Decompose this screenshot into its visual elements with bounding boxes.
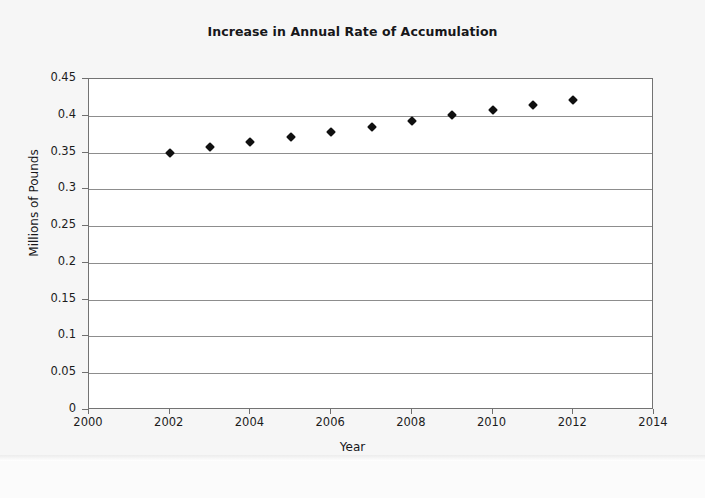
chart-page: Increase in Annual Rate of Accumulation … — [0, 0, 705, 498]
data-point — [326, 127, 336, 137]
y-axis-tick-label: 0.05 — [14, 364, 76, 378]
data-point — [205, 142, 215, 152]
data-point — [245, 137, 255, 147]
gridline — [89, 373, 652, 374]
x-axis-tick-mark — [330, 409, 331, 414]
y-axis-tick-label: 0.25 — [14, 217, 76, 231]
gridline — [89, 336, 652, 337]
x-axis-tick-mark — [249, 409, 250, 414]
chart-title: Increase in Annual Rate of Accumulation — [0, 24, 705, 39]
data-point — [488, 105, 498, 115]
data-point — [568, 95, 578, 105]
y-axis-tick-label: 0.45 — [14, 70, 76, 84]
x-axis-tick-label: 2004 — [219, 415, 279, 429]
x-axis-tick-mark — [653, 409, 654, 414]
gridline — [89, 189, 652, 190]
data-point — [367, 122, 377, 132]
x-axis-tick-mark — [88, 409, 89, 414]
x-axis-title: Year — [0, 440, 705, 454]
data-point — [447, 110, 457, 120]
gridline — [89, 263, 652, 264]
x-axis-tick-mark — [492, 409, 493, 414]
gridline — [89, 116, 652, 117]
y-axis-tick-label: 0 — [14, 401, 76, 415]
data-point — [407, 116, 417, 126]
x-axis-tick-label: 2012 — [542, 415, 602, 429]
plot-area — [88, 78, 653, 409]
y-axis-tick-label: 0.2 — [14, 254, 76, 268]
gridline — [89, 300, 652, 301]
x-axis-tick-label: 2000 — [58, 415, 118, 429]
x-axis-tick-label: 2002 — [139, 415, 199, 429]
data-point — [528, 100, 538, 110]
x-axis-tick-mark — [411, 409, 412, 414]
y-axis-tick-label: 0.1 — [14, 327, 76, 341]
x-axis-tick-label: 2008 — [381, 415, 441, 429]
gridline — [89, 226, 652, 227]
x-axis-tick-mark — [572, 409, 573, 414]
x-axis-tick-label: 2010 — [462, 415, 522, 429]
page-sheet-bottom-edge — [0, 455, 705, 461]
data-point — [286, 132, 296, 142]
data-point — [165, 148, 175, 158]
y-axis-tick-label: 0.15 — [14, 291, 76, 305]
y-axis-tick-label: 0.35 — [14, 144, 76, 158]
y-axis-tick-label: 0.4 — [14, 107, 76, 121]
y-axis-tick-label: 0.3 — [14, 180, 76, 194]
x-axis-tick-label: 2006 — [300, 415, 360, 429]
x-axis-tick-mark — [169, 409, 170, 414]
x-axis-tick-label: 2014 — [623, 415, 683, 429]
